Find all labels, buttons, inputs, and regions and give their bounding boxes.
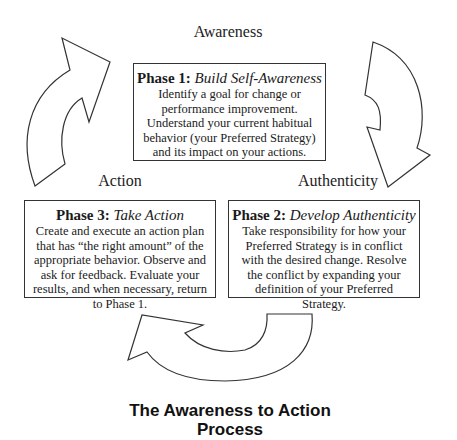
- stage-label-awareness: Awareness: [178, 23, 278, 41]
- phase-2-box: Phase 2: Develop Authenticity Take respo…: [228, 200, 420, 298]
- phase-2-description: Take responsibility for how your Preferr…: [229, 224, 419, 311]
- arrow-action-to-awareness-icon: [27, 38, 110, 186]
- phase-2-title: Phase 2: Develop Authenticity: [229, 207, 419, 224]
- arrow-awareness-to-authenticity-icon: [365, 42, 430, 187]
- caption-line-2: Process: [100, 420, 360, 439]
- phase-3-box: Phase 3: Take Action Create and execute …: [24, 200, 216, 298]
- diagram-caption: The Awareness to Action Process: [100, 401, 360, 439]
- stage-label-authenticity: Authenticity: [268, 172, 408, 190]
- arrow-authenticity-to-action-icon: [128, 314, 312, 381]
- caption-line-1: The Awareness to Action: [100, 401, 360, 420]
- phase-1-box: Phase 1: Build Self-Awareness Identify a…: [133, 63, 326, 161]
- phase-3-description: Create and execute an action plan that h…: [25, 224, 215, 311]
- phase-3-title: Phase 3: Take Action: [25, 207, 215, 224]
- phase-1-description: Identify a goal for change or performanc…: [134, 87, 325, 160]
- phase-1-title: Phase 1: Build Self-Awareness: [134, 70, 325, 87]
- stage-label-action: Action: [80, 172, 160, 190]
